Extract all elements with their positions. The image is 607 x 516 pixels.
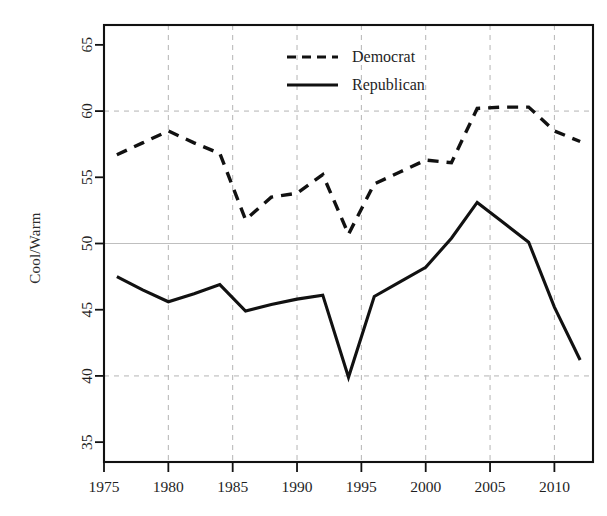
y-ticklabels: 35404550556065 bbox=[78, 37, 95, 450]
x-ticklabel-2005: 2005 bbox=[475, 478, 506, 495]
x-ticklabel-1980: 1980 bbox=[153, 478, 184, 495]
x-ticklabel-1990: 1990 bbox=[282, 478, 313, 495]
y-ticklabel-55: 55 bbox=[78, 169, 95, 185]
x-ticklabels: 19751980198519901995200020052010 bbox=[89, 478, 571, 495]
y-tickmarks bbox=[95, 45, 104, 442]
y-gridlines bbox=[104, 111, 593, 376]
chart-container: 35404550556065 1975198019851990199520002… bbox=[0, 0, 607, 516]
x-ticklabel-2000: 2000 bbox=[410, 478, 441, 495]
series-line-democrat bbox=[117, 107, 580, 234]
y-ticklabel-35: 35 bbox=[78, 434, 95, 450]
legend-label-republican: Republican bbox=[352, 76, 425, 94]
y-ticklabel-40: 40 bbox=[78, 368, 95, 384]
y-ticklabel-60: 60 bbox=[78, 103, 95, 119]
y-ticklabel-45: 45 bbox=[78, 302, 95, 318]
y-ticklabel-50: 50 bbox=[78, 236, 95, 252]
x-ticklabel-1995: 1995 bbox=[346, 478, 377, 495]
series-line-republican bbox=[117, 202, 580, 377]
y-ticklabel-65: 65 bbox=[78, 37, 95, 53]
x-ticklabel-1985: 1985 bbox=[217, 478, 248, 495]
y-axis-label: Cool/Warm bbox=[27, 212, 43, 284]
x-tickmarks bbox=[104, 462, 554, 472]
legend-label-democrat: Democrat bbox=[352, 48, 416, 65]
x-ticklabel-2010: 2010 bbox=[539, 478, 570, 495]
x-ticklabel-1975: 1975 bbox=[89, 478, 120, 495]
legend: Democrat Republican bbox=[287, 48, 425, 94]
line-chart: 35404550556065 1975198019851990199520002… bbox=[0, 0, 607, 516]
